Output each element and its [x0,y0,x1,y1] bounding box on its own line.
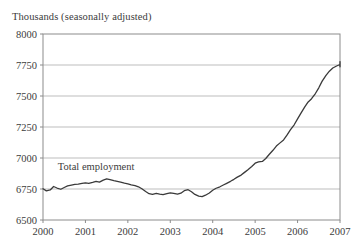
y-axis-tick-label: 7000 [16,153,37,164]
y-axis-tick-label: 6500 [16,215,37,226]
x-axis-tick-label: 2004 [202,226,224,237]
x-axis-tick-label: 2007 [330,226,351,237]
x-axis-tick-label: 2002 [117,226,138,237]
y-axis-tick-label: 6750 [16,184,37,195]
series-annotation-total-employment: Total employment [58,161,135,172]
x-axis-tick-label: 2006 [287,226,308,237]
y-axis-tick-label: 7500 [16,91,37,102]
x-axis-tick-labels-group: 20002001200220032004200520062007 [33,226,351,237]
y-axis-tick-label: 7750 [16,60,37,71]
y-axis-tick-label: 8000 [16,29,37,40]
x-axis-tick-label: 2001 [75,226,96,237]
series-inline-label: Total employment [58,161,135,172]
x-axis-tick-label: 2003 [160,226,181,237]
y-axis-tick-label: 7250 [16,122,37,133]
x-axis-tick-label: 2000 [33,226,54,237]
chart-plot-area: 6500675070007250750077508000 20002001200… [0,0,363,251]
y-axis-tick-labels-group: 6500675070007250750077508000 [16,29,37,226]
x-axis-tick-label: 2005 [245,226,266,237]
series-total-employment [43,62,340,197]
data-line-total-employment [43,62,340,197]
employment-line-chart: Thousands (seasonally adjusted) 65006750… [0,0,363,251]
